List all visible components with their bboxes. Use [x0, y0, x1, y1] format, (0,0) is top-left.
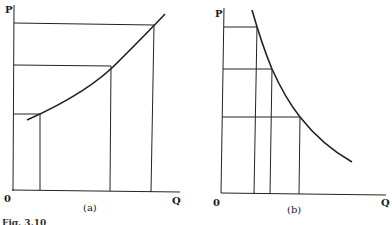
panel-b-vline-1: [254, 27, 257, 194]
panel-b-x-axis-label: Q: [381, 198, 390, 208]
panel-b-vline-3: [299, 117, 300, 194]
panel-a-vline-3: [151, 25, 154, 192]
figure-caption: Fig. 3.10: [2, 219, 46, 225]
panel-b-x-axis: [221, 193, 386, 195]
panel-a-vline-2: [110, 66, 111, 191]
panel-b-y-axis: [221, 8, 224, 193]
panel-a-hline-2: [14, 65, 111, 66]
panel-a-y-axis: [13, 5, 14, 191]
panel-a-x-axis-label: Q: [172, 196, 181, 206]
panel-b-origin-label: 0: [213, 198, 220, 208]
diagram-canvas: [0, 0, 392, 225]
panel-a-y-axis-label: P: [5, 5, 13, 15]
panel-a-curve: [27, 14, 165, 120]
panel-b-caption: (b): [287, 205, 301, 215]
panel-b-vline-2: [270, 69, 272, 194]
panel-b-curve: [252, 10, 352, 162]
panel-b-y-axis-label: P: [215, 9, 223, 19]
panel-a-hline-1: [14, 23, 154, 25]
panel-a-origin-label: 0: [4, 194, 11, 204]
panel-a-caption: (a): [83, 203, 97, 213]
panel-a-x-axis: [12, 190, 180, 192]
